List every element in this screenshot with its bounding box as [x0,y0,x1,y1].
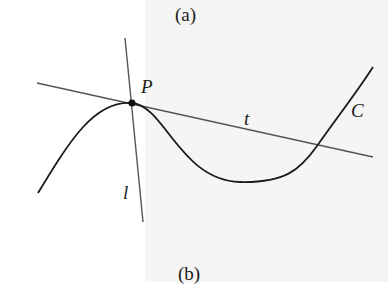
label-P: P [141,77,153,96]
caption-a: (a) [175,5,196,24]
label-l: l [123,183,128,202]
label-C: C [351,101,364,120]
label-t: t [244,109,249,128]
point-P-dot [129,100,136,107]
curve-C [38,67,373,193]
caption-b: (b) [178,264,200,283]
tangent-line-t [37,83,373,157]
